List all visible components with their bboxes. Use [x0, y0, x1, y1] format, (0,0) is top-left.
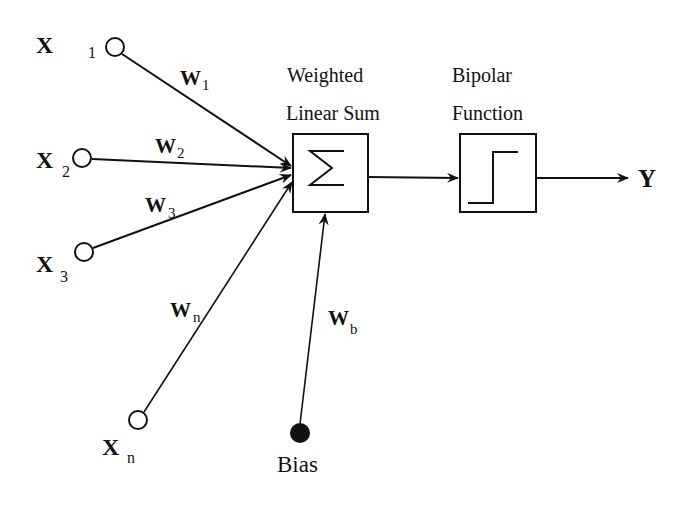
- activation-block: [460, 134, 536, 212]
- input-sub-xn: n: [127, 449, 135, 466]
- weight-label-wb: W: [328, 306, 349, 330]
- edge-x3-to-sum: [93, 175, 291, 248]
- bias-node: [290, 423, 310, 443]
- activation-block-label-line1: Bipolar: [452, 64, 512, 87]
- weight-sub-w3: 3: [168, 205, 176, 221]
- weight-label-w3: W: [145, 193, 166, 217]
- input-node-x3: [75, 243, 93, 261]
- weight-sub-wb: b: [350, 321, 358, 337]
- activation-block-label-line2: Function: [452, 102, 523, 124]
- edge-x2-to-sum: [92, 159, 291, 168]
- weight-label-w1: W: [180, 66, 201, 90]
- weight-label-wn: W: [170, 298, 191, 322]
- edge-xn-to-sum: [144, 182, 292, 412]
- input-sub-x2: 2: [62, 163, 70, 180]
- input-label-x2: X: [36, 147, 54, 173]
- input-node-x2: [73, 149, 91, 167]
- perceptron-diagram: X 1 X 2 X 3 X n W 1 W 2 W 3 W n W b Bias…: [0, 0, 681, 505]
- weight-sub-wn: n: [193, 309, 201, 325]
- input-label-xn: X: [102, 434, 120, 460]
- input-node-x1: [106, 38, 124, 56]
- weight-label-w2: W: [155, 134, 176, 158]
- input-sub-x1: 1: [88, 44, 96, 61]
- edge-bias-to-sum: [300, 214, 325, 424]
- weight-sub-w1: 1: [202, 77, 210, 93]
- input-label-x3: X: [36, 251, 54, 277]
- weight-sub-w2: 2: [177, 145, 185, 161]
- sum-block: [293, 134, 368, 212]
- bias-label: Bias: [277, 452, 318, 477]
- sum-block-label-line2: Linear Sum: [286, 102, 380, 124]
- input-node-xn: [129, 411, 147, 429]
- input-sub-x3: 3: [60, 268, 68, 285]
- edge-sum-to-activation: [368, 177, 458, 178]
- input-label-x1: X: [36, 32, 54, 58]
- sum-block-label-line1: Weighted: [287, 64, 363, 87]
- output-label: Y: [638, 165, 656, 192]
- edge-x1-to-sum: [122, 54, 291, 166]
